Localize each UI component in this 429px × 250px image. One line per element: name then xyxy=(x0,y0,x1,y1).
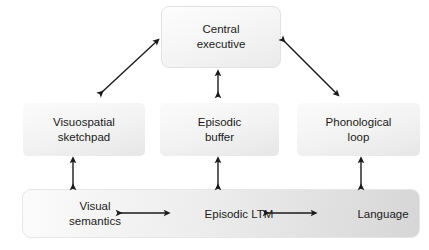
connector-central-to-visuospatial xyxy=(101,41,157,93)
node-central-executive: Central executive xyxy=(161,6,281,68)
node-phonological-loop-label: Phonological loop xyxy=(326,115,392,145)
node-phonological-loop: Phonological loop xyxy=(297,103,420,156)
node-episodic-buffer: Episodic buffer xyxy=(160,103,279,156)
node-episodic-buffer-label: Episodic buffer xyxy=(198,115,241,145)
node-episodic-ltm-label: Episodic LTM xyxy=(191,206,287,221)
connector-central-to-phonological xyxy=(283,40,337,94)
node-visuospatial-sketchpad: Visuospatial sketchpad xyxy=(23,103,145,156)
node-visuospatial-sketchpad-label: Visuospatial sketchpad xyxy=(53,115,115,145)
node-language-label: Language xyxy=(335,206,429,221)
node-central-executive-label: Central executive xyxy=(197,22,246,52)
node-long-term-memory-bar: Visual semantics Episodic LTM Language xyxy=(22,189,420,238)
node-visual-semantics-label: Visual semantics xyxy=(47,199,143,229)
working-memory-diagram: Central executive Visuospatial sketchpad… xyxy=(0,0,429,250)
